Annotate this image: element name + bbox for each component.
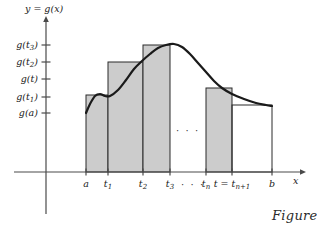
y-tick-label-subscript: 1 <box>30 96 34 104</box>
y-tick-label-base: g(a <box>19 107 34 118</box>
y-tick-label-gt1: g(t1) <box>0 92 38 102</box>
bar-t-b <box>232 105 272 172</box>
y-tick-label-ga: g(a) <box>0 108 38 118</box>
plot-canvas <box>0 0 317 232</box>
y-tick-label-close: ) <box>34 56 38 67</box>
x-tick-label-subscript: 1 <box>108 183 112 191</box>
y-tick-label-close: ) <box>34 107 38 118</box>
y-tick-label-base: g(t <box>16 39 30 50</box>
axis-ellipsis-text: · · · <box>181 179 205 190</box>
bar-t1-t2 <box>108 62 143 172</box>
y-tick-label-close: ) <box>34 73 38 84</box>
x-tick-label-base: b <box>269 178 275 189</box>
y-tick-label-base: g(t <box>21 73 35 84</box>
bar-t2-t3 <box>143 45 170 172</box>
y-axis-arrow <box>43 16 49 22</box>
x-tick-label-base: t = t <box>214 178 236 189</box>
y-tick-label-base: g(t <box>16 56 30 67</box>
x-tick-label-b: b <box>242 179 302 189</box>
y-axis-title-text: y = g(x) <box>25 3 63 14</box>
x-axis-arrow <box>300 169 306 175</box>
y-tick-label-base: g(t <box>16 91 30 102</box>
y-tick-label-gt: g(t) <box>0 74 38 84</box>
riemann-bars-group <box>86 45 272 172</box>
y-axis-title: y = g(x) <box>25 4 63 14</box>
figure-caption: Figure <box>272 208 317 223</box>
figure-caption-text: Figure <box>272 208 317 223</box>
inner-ellipsis: · · · <box>176 126 200 136</box>
x-tick-label-subscript: 3 <box>170 183 174 191</box>
axis-ellipsis: · · · <box>181 180 205 190</box>
y-tick-label-subscript: 2 <box>30 61 34 69</box>
y-tick-label-gt3: g(t3) <box>0 40 38 50</box>
figure-container: y = g(x) x g(t3)g(t2)g(t)g(t1)g(a) at1t2… <box>0 0 317 232</box>
inner-ellipsis-text: · · · <box>176 125 200 136</box>
y-tick-label-subscript: 3 <box>30 44 34 52</box>
bar-tn-t <box>206 88 232 172</box>
y-tick-label-close: ) <box>34 91 38 102</box>
y-tick-label-close: ) <box>34 39 38 50</box>
y-tick-label-gt2: g(t2) <box>0 57 38 67</box>
